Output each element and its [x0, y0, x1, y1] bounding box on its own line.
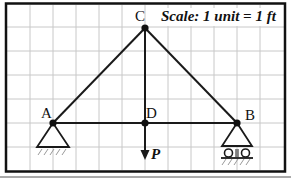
node-label-a: A — [41, 106, 52, 121]
load-label-p: P — [151, 147, 160, 162]
node-label-b: B — [245, 108, 255, 123]
joint-B — [233, 119, 240, 126]
node-label-d: D — [146, 106, 157, 121]
joint-C — [141, 24, 148, 31]
node-label-c: C — [135, 9, 145, 24]
diagram-canvas — [0, 0, 291, 182]
load-arrow-icon — [141, 123, 150, 160]
scale-note: Scale: 1 unit = 1 ft — [161, 9, 276, 24]
roller-support-icon — [221, 123, 253, 165]
pin-support-icon — [37, 123, 69, 155]
truss-diagram: C Scale: 1 unit = 1 ft A D B P — [0, 0, 291, 182]
